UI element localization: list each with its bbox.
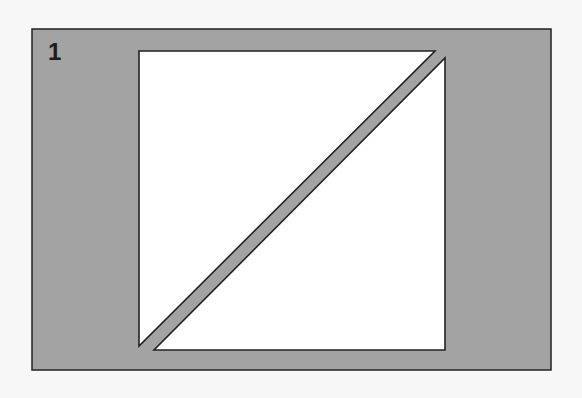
diagram-canvas [0, 0, 582, 398]
figure-label: 1 [48, 40, 61, 64]
